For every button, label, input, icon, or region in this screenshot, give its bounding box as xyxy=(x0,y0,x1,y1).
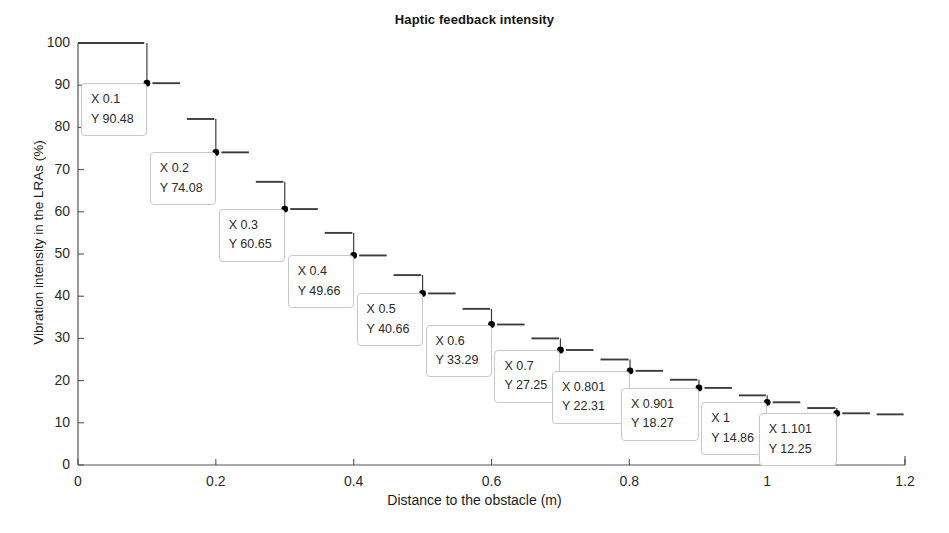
data-tip[interactable]: X 0.901Y 18.27 xyxy=(621,388,699,441)
data-tip-y-value: Y 14.86 xyxy=(711,429,758,448)
data-tip-y-value: Y 18.27 xyxy=(631,414,690,433)
data-tip-x-value: X 0.801 xyxy=(562,378,621,397)
data-tip[interactable]: X 0.4Y 49.66 xyxy=(288,255,354,308)
data-tip[interactable]: X 0.3Y 60.65 xyxy=(219,209,285,262)
x-tick-label: 0.6 xyxy=(462,473,522,489)
data-tip[interactable]: X 0.1Y 90.48 xyxy=(81,83,147,136)
data-tip-y-value: Y 60.65 xyxy=(229,235,276,254)
data-tip[interactable]: X 0.7Y 27.25 xyxy=(494,350,560,403)
data-tip[interactable]: X 0.5Y 40.66 xyxy=(357,293,423,346)
y-axis-label: Vibration intensity in the LRAs (%) xyxy=(31,63,46,423)
data-tip-x-value: X 1.101 xyxy=(769,420,828,439)
data-tip[interactable]: X 1Y 14.86 xyxy=(701,402,767,455)
data-tip-x-value: X 0.3 xyxy=(229,216,276,235)
data-tip-y-value: Y 49.66 xyxy=(298,282,345,301)
data-tip[interactable]: X 0.6Y 33.29 xyxy=(426,325,492,378)
data-tip[interactable]: X 0.2Y 74.08 xyxy=(150,152,216,205)
data-tip-x-value: X 1 xyxy=(711,409,758,428)
data-tip-y-value: Y 40.66 xyxy=(367,320,414,339)
x-tick-label: 0.4 xyxy=(324,473,384,489)
data-tip-x-value: X 0.901 xyxy=(631,395,690,414)
data-tip-x-value: X 0.2 xyxy=(160,159,207,178)
data-tip-x-value: X 0.5 xyxy=(367,300,414,319)
data-tip-y-value: Y 90.48 xyxy=(91,110,138,129)
x-tick-label: 0.8 xyxy=(599,473,659,489)
data-tip-y-value: Y 12.25 xyxy=(769,440,828,459)
x-tick-label: 0 xyxy=(48,473,108,489)
x-tick-label: 1 xyxy=(737,473,797,489)
data-tip-x-value: X 0.7 xyxy=(504,357,551,376)
x-tick-label: 1.2 xyxy=(875,473,935,489)
data-tip-y-value: Y 74.08 xyxy=(160,179,207,198)
data-tip-x-value: X 0.1 xyxy=(91,90,138,109)
data-tip[interactable]: X 1.101Y 12.25 xyxy=(759,413,837,466)
x-axis-label: Distance to the obstacle (m) xyxy=(0,492,949,508)
x-tick-label: 0.2 xyxy=(186,473,246,489)
y-tick-label: 0 xyxy=(30,456,70,472)
y-tick-label: 100 xyxy=(30,34,70,50)
data-tip[interactable]: X 0.801Y 22.31 xyxy=(552,371,630,424)
chart-figure: Haptic feedback intensity 01020304050607… xyxy=(0,0,949,533)
data-tip-y-value: Y 22.31 xyxy=(562,397,621,416)
data-tip-y-value: Y 33.29 xyxy=(436,351,483,370)
data-tip-y-value: Y 27.25 xyxy=(504,376,551,395)
data-tip-x-value: X 0.6 xyxy=(436,332,483,351)
data-tip-x-value: X 0.4 xyxy=(298,262,345,281)
